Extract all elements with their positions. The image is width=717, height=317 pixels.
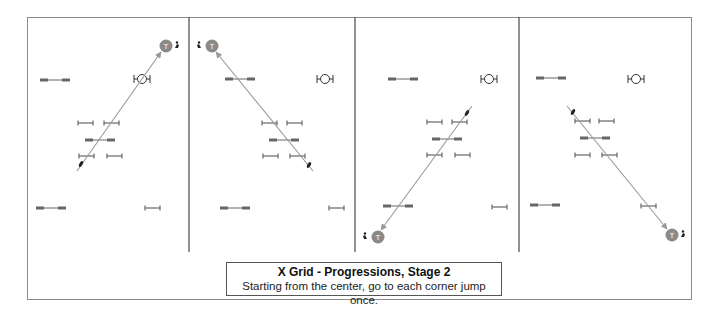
vertical-jump [78,121,93,126]
oxer-icon [628,75,644,84]
vertical-jump [329,206,344,211]
vertical-jump [287,121,302,126]
oxer-jump-rail [40,79,70,82]
oxer-jump-rail [36,207,66,210]
horse-icon [306,161,312,168]
target-label: T [670,231,675,240]
rider-icon [175,41,179,48]
rider-icon [197,41,201,48]
rider-icon [363,232,367,239]
vertical-jump [602,153,617,158]
vertical-jump [599,119,614,124]
oxer-jump-rail [269,139,299,142]
oxer-jump-rail [536,77,566,80]
target-marker: T [666,229,679,242]
oxer-jump-rail [388,78,418,81]
panel-4: T [530,75,685,242]
diagram-stage: TTTT X Grid - Progressions, Stage 2 Star… [0,0,717,317]
target-marker: T [372,231,385,244]
oxer-jump-rail [220,207,250,210]
target-label: T [164,42,169,51]
vertical-jump [107,154,122,159]
horse-icon [570,108,576,115]
rider-icon [681,230,685,237]
caption-subtitle: Starting from the center, go to each cor… [227,279,501,307]
target-label: T [376,233,381,242]
vertical-jump [427,120,442,125]
target-label: T [210,42,215,51]
vertical-jump [455,153,470,158]
oxer-jump-rail [225,78,255,81]
panel-2: T [197,40,344,211]
vertical-jump [145,206,160,211]
path-arrow [381,106,472,230]
target-marker: T [160,40,173,53]
oxer-icon [317,75,333,84]
panel-3: T [363,75,507,244]
panel-1: T [36,40,179,211]
oxer-jump-rail [580,137,610,140]
path-arrow [216,52,313,171]
vertical-jump [575,153,590,158]
oxer-jump-rail [530,204,560,207]
vertical-jump [263,154,278,159]
target-marker: T [206,40,219,53]
caption-title: X Grid - Progressions, Stage 2 [227,265,501,279]
caption-box: X Grid - Progressions, Stage 2 Starting … [226,262,502,296]
path-arrow [77,52,161,171]
path-arrow [567,106,667,229]
vertical-jump [492,205,507,210]
oxer-icon [481,75,497,84]
